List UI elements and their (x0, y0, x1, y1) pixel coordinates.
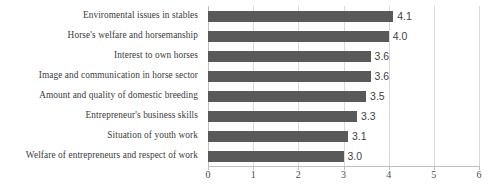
bars-layer: 4.14.03.63.63.53.33.13.0 (208, 6, 479, 166)
category-label-row: Entrepreneur's business skills (0, 106, 203, 126)
x-axis-tick-labels: 0123456 (208, 170, 479, 190)
x-tick-label: 0 (206, 170, 211, 180)
category-label: Enviromental issues in stables (83, 11, 198, 20)
bar (208, 31, 389, 42)
category-label: Horse's welfare and horsemanship (68, 31, 198, 40)
bar-row: 3.6 (208, 46, 479, 66)
category-label: Amount and quality of domestic breeding (39, 91, 198, 100)
x-tick-label: 2 (296, 170, 301, 180)
gridline (479, 6, 480, 166)
bar-value-label: 4.0 (393, 31, 408, 42)
category-label: Image and communication in horse sector (39, 71, 198, 80)
x-tick-mark (298, 166, 299, 170)
category-label-row: Image and communication in horse sector (0, 66, 203, 86)
bar-value-label: 3.1 (352, 131, 367, 142)
x-tick-label: 5 (431, 170, 436, 180)
bar-row: 4.1 (208, 6, 479, 26)
bar (208, 51, 371, 62)
category-label-row: Interest to own horses (0, 46, 203, 66)
bar-value-label: 4.1 (397, 11, 412, 22)
category-label-row: Horse's welfare and horsemanship (0, 26, 203, 46)
bar-row: 4.0 (208, 26, 479, 46)
category-label-row: Enviromental issues in stables (0, 6, 203, 26)
category-label-row: Amount and quality of domestic breeding (0, 86, 203, 106)
bar-row: 3.5 (208, 86, 479, 106)
bar (208, 91, 366, 102)
x-tick-label: 3 (341, 170, 346, 180)
x-tick-mark (208, 166, 209, 170)
category-label: Entrepreneur's business skills (86, 111, 198, 120)
bar-row: 3.0 (208, 146, 479, 166)
x-tick-label: 6 (477, 170, 482, 180)
x-tick-label: 4 (386, 170, 391, 180)
bar (208, 111, 357, 122)
x-tick-mark (434, 166, 435, 170)
category-label: Welfare of entrepreneurs and respect of … (26, 151, 198, 160)
x-tick-mark (389, 166, 390, 170)
x-tick-label: 1 (251, 170, 256, 180)
category-label: Situation of youth work (107, 131, 198, 140)
x-tick-mark (344, 166, 345, 170)
bar-row: 3.6 (208, 66, 479, 86)
x-tick-mark (479, 166, 480, 170)
bar-chart: Enviromental issues in stablesHorse's we… (0, 0, 498, 194)
bar-value-label: 3.0 (348, 151, 363, 162)
bar (208, 151, 344, 162)
category-label: Interest to own horses (114, 51, 198, 60)
x-tick-mark (253, 166, 254, 170)
bar (208, 71, 371, 82)
bar-value-label: 3.6 (375, 51, 390, 62)
bar (208, 11, 393, 22)
bar-value-label: 3.5 (370, 91, 385, 102)
category-label-row: Welfare of entrepreneurs and respect of … (0, 146, 203, 166)
bar-row: 3.3 (208, 106, 479, 126)
bar-value-label: 3.3 (361, 111, 376, 122)
plot-area: 4.14.03.63.63.53.33.13.0 (208, 6, 479, 166)
category-axis-labels: Enviromental issues in stablesHorse's we… (0, 6, 203, 166)
bar-value-label: 3.6 (375, 71, 390, 82)
category-label-row: Situation of youth work (0, 126, 203, 146)
bar-row: 3.1 (208, 126, 479, 146)
bar (208, 131, 348, 142)
